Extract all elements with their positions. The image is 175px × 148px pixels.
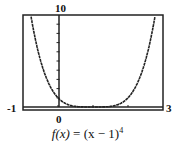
y-max-label: 10 — [55, 3, 66, 14]
function-expression: = (x − 1) — [70, 126, 119, 141]
plot-frame — [23, 15, 163, 110]
function-title: f(x) = (x − 1)4 — [0, 126, 175, 142]
function-exponent: 4 — [119, 126, 123, 135]
origin-label: 0 — [56, 114, 62, 125]
function-curve — [31, 17, 155, 107]
x-min-label: -1 — [7, 103, 16, 114]
function-name: f(x) — [52, 126, 70, 141]
x-max-label: 3 — [166, 103, 172, 114]
